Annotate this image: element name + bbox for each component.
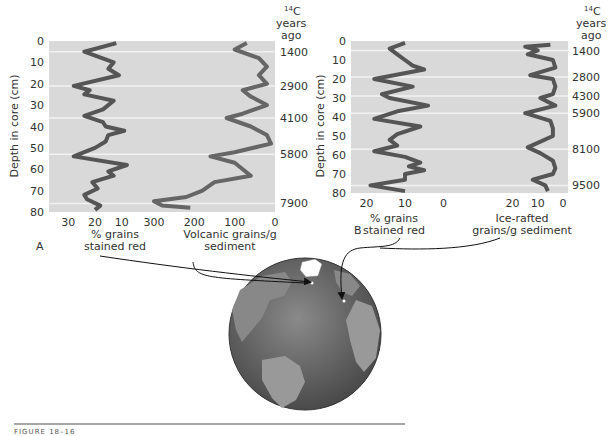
age-label: 8100	[572, 143, 600, 156]
panel-b-age-header: 14C years ago	[576, 5, 607, 42]
y-tick-label: 70	[332, 168, 346, 181]
panel-a-letter: A	[36, 240, 44, 253]
y-tick-label: 30	[332, 92, 346, 105]
x-tick-label: 300	[144, 216, 165, 229]
arrow-b-ice-rafted	[380, 238, 500, 249]
x-tick-label: 20	[360, 197, 374, 210]
panel-b-letter: B	[354, 224, 362, 237]
y-tick-label: 40	[332, 111, 346, 124]
panel-b-y-axis-title: Depth in core (cm)	[314, 74, 327, 177]
age-label: 4100	[280, 112, 308, 125]
panel-a-plot-area	[49, 41, 275, 212]
svg-text:ago: ago	[581, 29, 602, 42]
y-tick-label: 10	[332, 54, 346, 67]
y-tick-label: 60	[332, 149, 346, 162]
svg-text:ago: ago	[281, 29, 302, 42]
y-tick-label: 80	[332, 187, 346, 200]
age-label: 2800	[572, 71, 600, 84]
panel-a-right-xlabel-2: sediment	[204, 240, 256, 253]
y-tick-label: 0	[37, 35, 44, 48]
age-label: 7900	[280, 197, 308, 210]
age-label: 5900	[572, 107, 600, 120]
x-tick-label: 10	[398, 197, 412, 210]
y-tick-label: 50	[332, 130, 346, 143]
figure-canvas: 01020304050607080 3020103002001000 14002…	[0, 0, 613, 436]
y-tick-label: 40	[30, 121, 44, 134]
panel-a-age-axis: 14002900410058007900	[280, 46, 308, 211]
core-b-location	[343, 300, 346, 303]
x-tick-label: 30	[61, 216, 75, 229]
panel-a-age-header: 14C years ago	[276, 5, 307, 42]
age-label: 2900	[280, 80, 308, 93]
y-tick-label: 80	[30, 206, 44, 219]
panel-b-x-axis: 2010020100	[360, 197, 567, 210]
globe	[229, 258, 381, 410]
panel-a-y-axis-title: Depth in core (cm)	[8, 74, 21, 177]
age-label: 1400	[572, 45, 600, 58]
panel-b-left-xlabel-2: stained red	[363, 224, 425, 237]
age-label: 9500	[572, 179, 600, 192]
y-tick-label: 60	[30, 163, 44, 176]
y-tick-label: 50	[30, 142, 44, 155]
x-tick-label: 0	[559, 197, 566, 210]
y-tick-label: 10	[30, 56, 44, 69]
age-label: 5800	[280, 148, 308, 161]
y-tick-label: 30	[30, 99, 44, 112]
core-a-location	[311, 282, 314, 285]
x-tick-label: 0	[440, 197, 447, 210]
y-tick-label: 20	[332, 73, 346, 86]
panel-a-y-axis: 01020304050607080	[30, 35, 44, 219]
age-label: 1400	[280, 46, 308, 59]
panel-a-left-xlabel-2: stained red	[84, 240, 146, 253]
x-tick-label: 20	[506, 197, 520, 210]
panel-b-right-xlabel-2: grains/g sediment	[472, 224, 572, 237]
figure-caption: FIGURE 18–16	[14, 428, 75, 436]
x-tick-label: 10	[531, 197, 545, 210]
panel-b-age-axis: 140028004300590081009500	[572, 45, 600, 193]
panel-b-y-axis: 01020304050607080	[332, 35, 346, 200]
y-tick-label: 0	[339, 35, 346, 48]
y-tick-label: 20	[30, 78, 44, 91]
y-tick-label: 70	[30, 185, 44, 198]
age-label: 4300	[572, 90, 600, 103]
